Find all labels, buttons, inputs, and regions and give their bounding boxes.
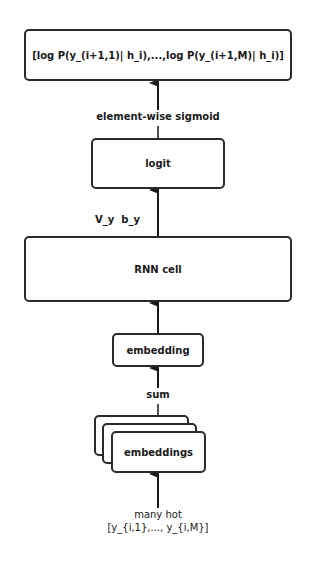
logit-label: logit bbox=[145, 158, 171, 169]
embedding-box: embedding bbox=[112, 333, 204, 367]
sum-label: sum bbox=[128, 389, 188, 400]
logit-box: logit bbox=[91, 138, 225, 189]
sigmoid-label: element-wise sigmoid bbox=[88, 111, 228, 122]
embedding-label: embedding bbox=[126, 345, 189, 356]
input-label-line2: [y_{i,1},..., y_{i,M}] bbox=[88, 522, 228, 533]
rnn-cell-label: RNN cell bbox=[134, 264, 182, 275]
embeddings-box: embeddings bbox=[111, 431, 206, 473]
embeddings-label: embeddings bbox=[124, 447, 193, 458]
output-log-prob-box: [log P(y_(i+1,1)| h_i),...,log P(y_(i+1,… bbox=[24, 29, 292, 81]
input-label-line1: many hot bbox=[98, 509, 218, 520]
rnn-cell-box: RNN cell bbox=[24, 236, 292, 302]
output-log-prob-label: [log P(y_(i+1,1)| h_i),...,log P(y_(i+1,… bbox=[32, 50, 284, 61]
params-label: V_y b_y bbox=[95, 214, 140, 225]
